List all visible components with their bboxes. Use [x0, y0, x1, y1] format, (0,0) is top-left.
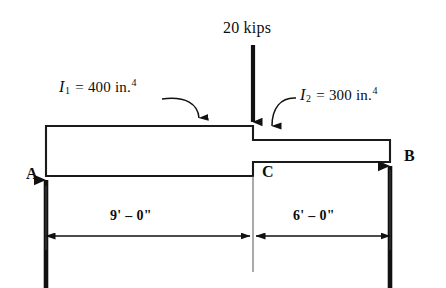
equals-sign-i2: = [316, 87, 325, 103]
leader-line-i1 [162, 98, 199, 118]
beam-profile [46, 126, 390, 176]
inertia-value-i2: 300 [329, 87, 352, 103]
inertia-label-i2: I2=300 in.4 [300, 86, 378, 104]
inertia-unit-i2: in. [356, 87, 372, 103]
inertia-exponent-i2: 4 [373, 85, 378, 96]
beam-diagram-svg [0, 0, 446, 288]
load-magnitude-label: 20 kips [223, 20, 271, 36]
inertia-subscript-i2: 2 [306, 93, 311, 104]
inertia-subscript-i1: 1 [65, 85, 70, 96]
beam-outline [46, 126, 390, 176]
support-label-a: A [26, 166, 38, 182]
leader-line-i2 [272, 98, 296, 126]
dimension-label-right: 6' – 0" [293, 209, 335, 223]
support-label-b: B [404, 148, 415, 164]
dimension-label-left: 9' – 0" [110, 209, 152, 223]
inertia-symbol-i2: I [300, 86, 306, 103]
beam-diagram-canvas: 20 kips I1=400 in.4 I2=300 in.4 A C B 9'… [0, 0, 446, 288]
equals-sign-i1: = [75, 79, 84, 95]
support-label-c: C [262, 164, 274, 180]
inertia-exponent-i1: 4 [132, 77, 137, 88]
inertia-symbol-i1: I [59, 78, 65, 95]
inertia-label-i1: I1=400 in.4 [59, 78, 137, 96]
inertia-value-i1: 400 [88, 79, 111, 95]
inertia-unit-i1: in. [115, 79, 131, 95]
